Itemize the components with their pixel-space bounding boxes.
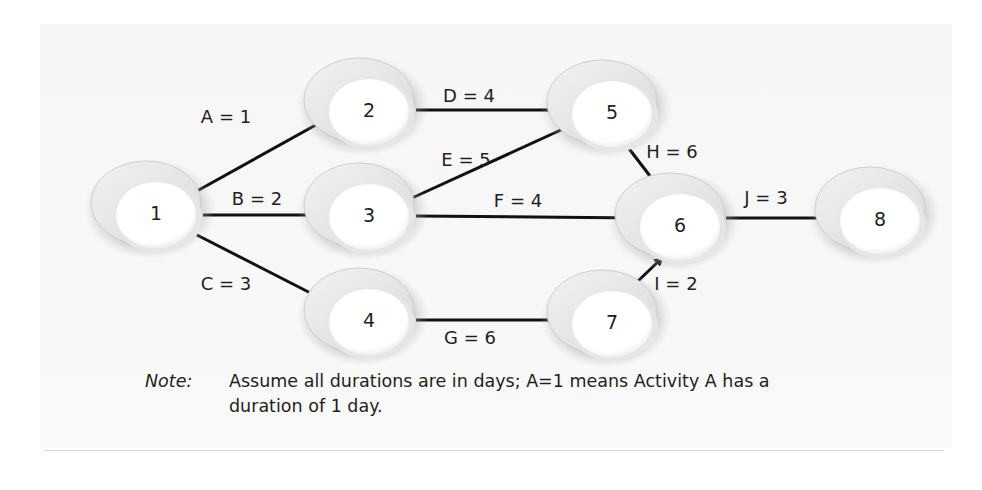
node-3: 3 — [297, 161, 429, 261]
node-label: 5 — [606, 101, 618, 123]
note-caption: Note:Assume all durations are in days; A… — [145, 369, 905, 419]
edge-e — [412, 124, 574, 198]
note-text-2: duration of 1 day. — [229, 396, 383, 416]
node-2: 2 — [297, 56, 429, 156]
node-label: 8 — [874, 208, 886, 230]
edge-label-g: G = 6 — [444, 327, 496, 348]
note-text-1: Assume all durations are in days; A=1 me… — [229, 371, 770, 391]
note-key: Note: — [145, 369, 229, 394]
node-label: 6 — [674, 214, 686, 236]
node-6: 6 — [608, 171, 740, 271]
edge-label-i: I = 2 — [654, 273, 697, 294]
edge-label-e: E = 5 — [441, 149, 490, 170]
node-4: 4 — [297, 266, 429, 366]
node-7: 7 — [540, 268, 672, 368]
node-label: 2 — [363, 99, 375, 121]
note-line-1: Note:Assume all durations are in days; A… — [145, 369, 905, 394]
edges — [197, 110, 842, 320]
edge-label-h: H = 6 — [646, 141, 698, 162]
edge-label-d: D = 4 — [443, 85, 495, 106]
edge-label-f: F = 4 — [494, 190, 542, 211]
node-8: 8 — [808, 165, 940, 265]
node-label: 1 — [150, 202, 162, 224]
edge-label-a: A = 1 — [201, 106, 251, 127]
node-1: 1 — [84, 159, 216, 259]
node-label: 7 — [606, 311, 618, 333]
edge-label-j: J = 3 — [743, 187, 787, 208]
edge-label-b: B = 2 — [232, 188, 282, 209]
node-label: 4 — [363, 309, 375, 331]
edge-f — [416, 216, 640, 218]
edge-label-c: C = 3 — [201, 273, 252, 294]
note-line-2: duration of 1 day. — [145, 394, 905, 419]
node-label: 3 — [363, 204, 375, 226]
